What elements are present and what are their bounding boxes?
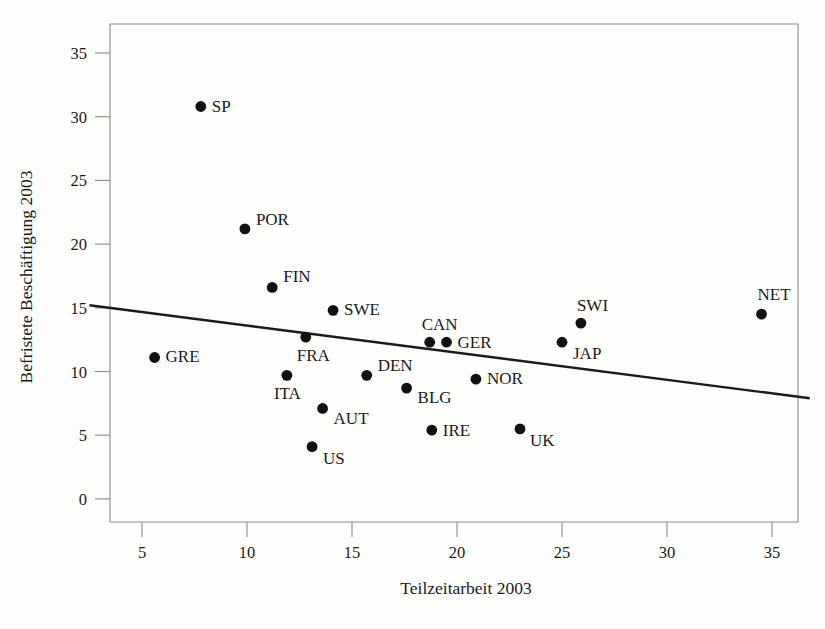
y-tick-label: 35 (71, 44, 88, 63)
y-tick-label: 20 (71, 235, 88, 254)
data-point-label: IRE (443, 421, 470, 440)
data-point-label: NET (758, 285, 792, 304)
data-point (361, 370, 372, 381)
data-point (328, 305, 339, 316)
x-tick-label: 15 (344, 543, 361, 562)
y-tick-label: 5 (79, 426, 87, 445)
data-point-label: POR (256, 210, 290, 229)
y-tick-label: 10 (71, 363, 88, 382)
data-point (195, 101, 206, 112)
data-point-label: FRA (297, 346, 331, 365)
data-point-label: SWE (344, 300, 380, 319)
data-point-label: UK (530, 431, 555, 450)
data-point-label: ITA (274, 384, 302, 403)
data-point (576, 318, 587, 329)
x-tick-label: 35 (764, 543, 781, 562)
data-point (557, 337, 568, 348)
y-tick-label: 25 (71, 171, 88, 190)
data-point-label: FIN (283, 267, 310, 286)
y-tick-label: 30 (71, 108, 88, 127)
data-point-label: CAN (422, 315, 458, 334)
data-point-label: GRE (166, 347, 200, 366)
data-point-label: JAP (573, 344, 601, 363)
data-point (756, 309, 767, 320)
x-axis-title: Teilzeitarbeit 2003 (400, 578, 532, 598)
data-point (401, 383, 412, 394)
data-point (471, 374, 482, 385)
data-point-label: NOR (487, 369, 524, 388)
x-tick-label: 25 (554, 543, 571, 562)
data-point (282, 370, 293, 381)
data-point (426, 425, 437, 436)
y-axis-ticks: 05101520253035 (71, 44, 111, 509)
data-point-label: SWI (577, 296, 609, 315)
y-tick-label: 15 (71, 299, 88, 318)
scatter-plot: 5101520253035 05101520253035 SPPORFINSWE… (0, 0, 825, 629)
data-point (267, 282, 278, 293)
data-point (441, 337, 452, 348)
x-tick-label: 10 (239, 543, 256, 562)
chart-page: 5101520253035 05101520253035 SPPORFINSWE… (0, 0, 825, 629)
data-point-label: US (323, 449, 345, 468)
x-tick-label: 5 (138, 543, 146, 562)
data-point-label: BLG (418, 388, 452, 407)
data-point-label: GER (458, 333, 493, 352)
data-point (240, 223, 251, 234)
data-point (515, 423, 526, 434)
data-point (424, 337, 435, 348)
x-tick-label: 20 (449, 543, 466, 562)
x-tick-label: 30 (659, 543, 676, 562)
data-point (317, 403, 328, 414)
data-point-label: AUT (334, 409, 370, 428)
x-axis-ticks: 5101520253035 (138, 522, 780, 562)
y-tick-label: 0 (79, 490, 87, 509)
data-points: SPPORFINSWEGREFRACANGERSWIJAPNETITADENBL… (149, 97, 791, 468)
y-axis-title: Befristete Beschäftigung 2003 (16, 170, 36, 383)
data-point (149, 352, 160, 363)
data-point-label: DEN (378, 356, 413, 375)
data-point (307, 441, 318, 452)
data-point (300, 332, 311, 343)
data-point-label: SP (212, 97, 231, 116)
